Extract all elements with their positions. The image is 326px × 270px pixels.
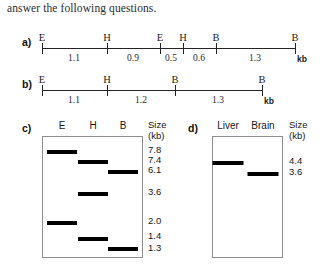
gel-c-band-1.4	[78, 237, 108, 241]
map-b-tick-1	[42, 85, 43, 96]
map-b-segment-1: 1.1	[68, 95, 80, 105]
map-a-segment-1: 1.1	[68, 53, 80, 63]
gel-d-size-header-line1: Size	[289, 120, 307, 131]
map-b-unit: kb	[264, 96, 274, 106]
gel-c-band-6.1	[108, 170, 138, 174]
gel-c-band-7.8	[47, 150, 77, 154]
map-a-segment-5: 1.3	[249, 53, 261, 63]
gel-c-band-3.6	[78, 192, 108, 196]
map-a-site-2: H	[103, 32, 111, 43]
gel-d-size-header-line2: (kb)	[289, 131, 305, 142]
map-b-segment-3: 1.3	[212, 95, 224, 105]
gel-d-lane-label-brain: Brain	[251, 120, 274, 131]
map-b-site-4: B	[258, 74, 265, 85]
map-a-site-6: B	[291, 32, 298, 43]
map-a-tick-5	[216, 43, 217, 54]
gel-d-size-marker-4.4: 4.4	[289, 155, 302, 166]
map-b-axis	[42, 90, 262, 91]
intro-text: answer the following questions.	[7, 2, 156, 14]
gel-c-size-header-line2: (kb)	[148, 131, 164, 142]
gel-c-lane-label-b: B	[120, 120, 127, 131]
gel-c-band-1.3	[108, 247, 138, 251]
map-a-tick-2	[107, 43, 108, 54]
gel-d-box	[212, 136, 283, 258]
part-label-b: b)	[22, 78, 32, 90]
map-a-tick-3	[160, 43, 161, 54]
map-b-site-3: B	[171, 74, 178, 85]
map-a-unit: kb	[297, 54, 307, 64]
gel-c-lane-label-e: E	[59, 120, 66, 131]
gel-c-lane-label-h: H	[89, 120, 96, 131]
gel-c-size-marker-1.3: 1.3	[148, 242, 161, 253]
map-b-site-2: H	[103, 74, 111, 85]
gel-c-band-7.4	[78, 160, 108, 164]
gel-d-lane-label-liver: Liver	[217, 120, 239, 131]
map-a-tick-1	[42, 43, 43, 54]
map-b-tick-4	[262, 85, 263, 96]
map-b-tick-3	[175, 85, 176, 96]
map-a-axis	[42, 48, 295, 49]
map-a-site-1: E	[39, 32, 45, 43]
map-a-site-3: E	[157, 32, 163, 43]
gel-d-size-marker-3.6: 3.6	[289, 166, 302, 177]
map-b-tick-2	[107, 85, 108, 96]
gel-c-size-marker-1.4: 1.4	[148, 230, 161, 241]
map-b-site-1: E	[39, 74, 45, 85]
map-a-site-4: H	[179, 32, 187, 43]
map-b-segment-2: 1.2	[135, 95, 147, 105]
gel-c-band-2.0	[47, 221, 77, 225]
map-a-tick-6	[295, 43, 296, 54]
map-a-site-5: B	[212, 32, 219, 43]
part-label-a: a)	[22, 36, 31, 48]
map-a-segment-3: 0.5	[165, 53, 177, 63]
part-label-c: c)	[22, 122, 31, 134]
gel-d-band-4.4	[213, 161, 244, 165]
map-a-segment-4: 0.6	[193, 53, 205, 63]
gel-c-size-marker-2.0: 2.0	[148, 215, 161, 226]
gel-d-band-3.6	[248, 172, 279, 176]
gel-c-size-marker-6.1: 6.1	[148, 164, 161, 175]
gel-c-size-header-line1: Size	[148, 120, 166, 131]
map-a-segment-2: 0.9	[127, 53, 139, 63]
map-a-tick-4	[183, 43, 184, 54]
gel-c-size-marker-3.6: 3.6	[148, 186, 161, 197]
part-label-d: d)	[188, 122, 198, 134]
